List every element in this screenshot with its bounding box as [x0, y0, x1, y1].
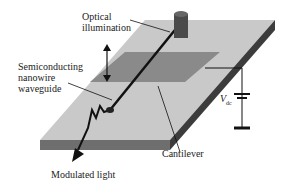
motion-arrow-up [103, 44, 111, 51]
vdc-sub: dc [226, 100, 232, 106]
label-optical: Optical [82, 11, 111, 22]
label-modulated-light: Modulated light [51, 169, 115, 180]
label-semiconducting: Semiconducting [18, 61, 83, 72]
diagram-canvas [0, 0, 289, 189]
modulated-light-arrowhead [72, 148, 84, 162]
illumination-source [174, 14, 188, 38]
label-nanowire: nanowire [18, 72, 55, 83]
substrate-front [40, 140, 170, 150]
illumination-top [174, 11, 188, 17]
label-vdc: Vdc [220, 93, 232, 106]
wire-end-dot [106, 107, 114, 113]
label-illumination: illumination [82, 22, 131, 33]
label-waveguide: waveguide [18, 83, 61, 94]
label-cantilever: Cantilever [162, 148, 204, 159]
